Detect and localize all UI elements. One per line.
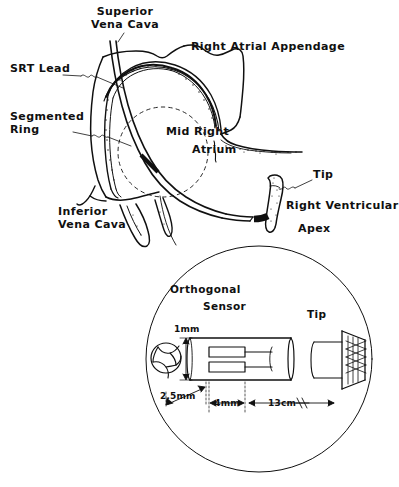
label-tip-detail: Tip: [307, 308, 326, 321]
label-dim-offset: 2.5mm: [160, 391, 196, 402]
label-mid-right-atrium-line2: Atrium: [192, 143, 237, 156]
label-tip-rv: Tip: [313, 168, 333, 181]
label-right-ventricular-apex-line1: Right Ventricular: [286, 199, 398, 212]
label-right-atrial-appendage: Right Atrial Appendage: [191, 40, 345, 53]
label-right-ventricular-apex-line2: Apex: [298, 222, 331, 235]
label-segmented-ring: Segmented Ring: [10, 110, 84, 137]
label-dim-sensor-span: 4mm: [204, 398, 250, 409]
label-dim-diameter: 1mm: [174, 324, 200, 335]
label-orthogonal-sensor-line1: Orthogonal: [170, 283, 241, 296]
label-orthogonal-sensor-line2: Sensor: [203, 300, 246, 313]
label-dim-tip-distance: 13cm: [258, 398, 306, 409]
figure-canvas: Superior Vena Cava Right Atrial Appendag…: [0, 0, 399, 487]
label-inferior-vena-cava: Inferior Vena Cava: [58, 205, 126, 232]
label-mid-right-atrium-line1: Mid Right: [166, 125, 229, 138]
label-srt-lead: SRT Lead: [10, 62, 70, 75]
label-superior-vena-cava: Superior Vena Cava: [65, 5, 185, 32]
